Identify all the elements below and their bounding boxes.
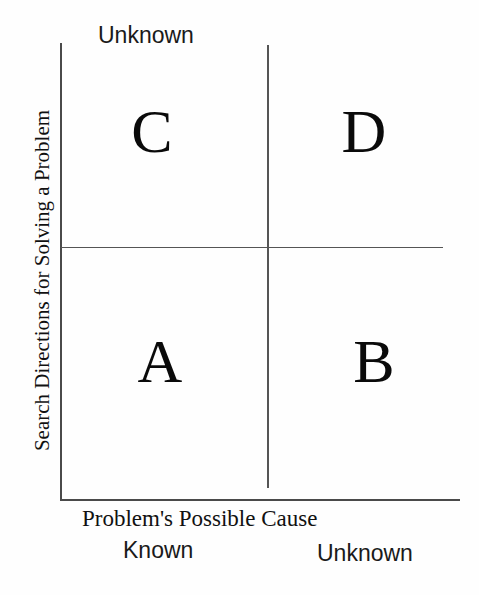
quadrant-label-top-right: D: [324, 100, 404, 162]
vertical-divider-line: [267, 45, 269, 488]
quadrant-label-bottom-right: B: [334, 330, 414, 392]
y-axis-line: [60, 43, 62, 501]
quadrant-label-top-left: C: [112, 100, 192, 162]
x-axis-tick-known: Known: [123, 537, 193, 564]
y-axis-tick-unknown: Unknown: [98, 22, 194, 49]
quadrant-label-bottom-left: A: [120, 330, 200, 392]
x-axis-line: [60, 499, 460, 501]
x-axis-title: Problem's Possible Cause: [82, 506, 317, 532]
horizontal-divider-line: [61, 247, 443, 248]
x-axis-tick-unknown: Unknown: [317, 540, 413, 567]
y-axis-title: Search Directions for Solving a Problem: [30, 31, 55, 531]
quadrant-diagram: C D A B Search Directions for Solving a …: [0, 0, 479, 595]
